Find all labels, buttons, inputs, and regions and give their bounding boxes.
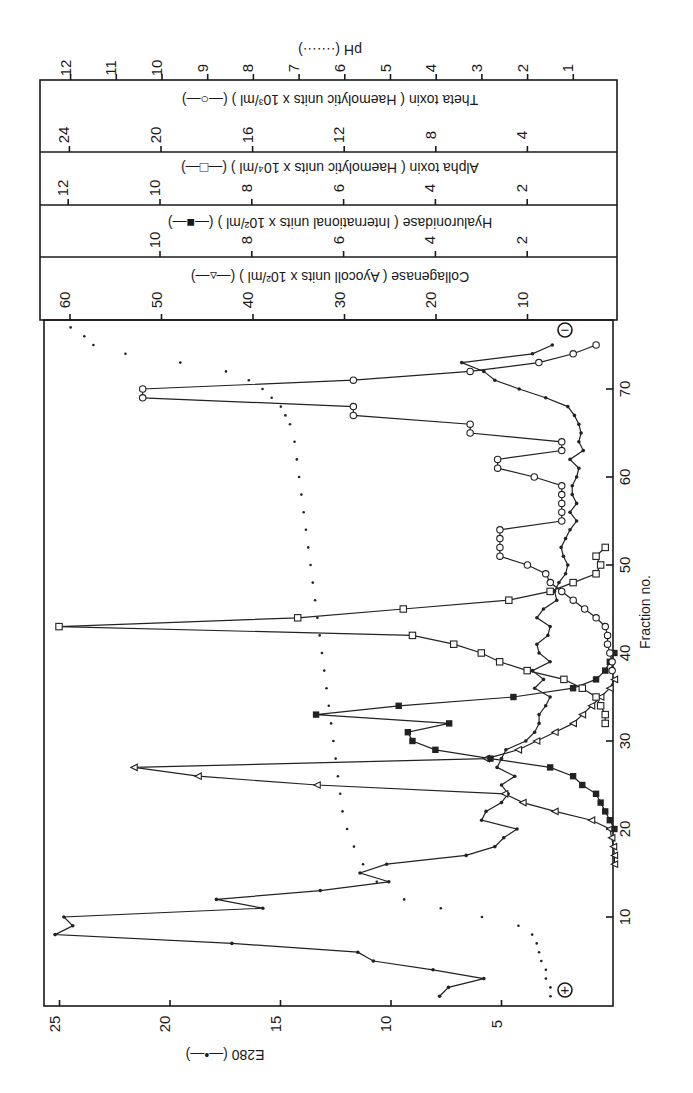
fraction-tick-label: 30 <box>616 733 633 750</box>
collagenase-tick-label: 10 <box>514 292 531 309</box>
e280-tick-label: 15 <box>267 1016 284 1033</box>
ph-tick-label: 1 <box>559 64 576 72</box>
hyaluronidase-tick-label: 4 <box>421 236 438 244</box>
collagenase-tick-label: 40 <box>239 292 256 309</box>
alpha-tick-label: 4 <box>421 184 438 192</box>
ph-tick-label: 10 <box>148 60 165 77</box>
e280-axis-title: E280 (—•—) <box>186 1047 265 1063</box>
theta-axis-title: Theta toxin ( Haemolytic units x 10³/ml … <box>182 92 478 108</box>
e280-tick-label: 25 <box>46 1016 63 1033</box>
theta-tick-label: 12 <box>330 127 347 144</box>
ph-tick-label: 4 <box>422 64 439 72</box>
hyaluronidase-axis-title: Hyaluronidase ( International units x 10… <box>168 215 492 231</box>
axis-ticks <box>60 74 614 1006</box>
collagenase-tick-label: 60 <box>56 292 73 309</box>
electrode-sign: − <box>561 321 570 338</box>
ph-tick-label: 7 <box>285 64 302 72</box>
series-alpha-toxin <box>56 544 609 726</box>
plot-frame <box>44 320 613 1006</box>
fraction-axis-title: Fraction no. <box>637 575 653 649</box>
data-series <box>53 326 617 998</box>
series-hyaluronidase <box>313 650 618 832</box>
collagenase-tick-label: 30 <box>331 292 348 309</box>
series-theta-toxin <box>139 342 615 674</box>
alpha-tick-label: 8 <box>238 184 255 192</box>
chromatography-chart: 10203040506070Fraction no.510152025E280 … <box>0 0 693 1093</box>
e280-tick-label: 10 <box>377 1016 394 1033</box>
ph-tick-label: 11 <box>102 60 119 76</box>
theta-tick-label: 4 <box>513 131 530 139</box>
fraction-tick-label: 50 <box>616 557 633 574</box>
theta-tick-label: 8 <box>422 131 439 139</box>
electrode-sign: + <box>561 981 570 998</box>
ph-axis-title: pH (·······) <box>298 42 362 58</box>
ph-tick-label: 12 <box>57 60 74 77</box>
ph-tick-label: 2 <box>514 64 531 72</box>
alpha-tick-label: 12 <box>54 180 71 197</box>
ph-tick-label: 6 <box>331 64 348 72</box>
theta-tick-label: 16 <box>239 127 256 144</box>
e280-tick-label: 5 <box>488 1020 505 1028</box>
theta-tick-label: 20 <box>147 127 164 144</box>
e280-tick-label: 20 <box>156 1016 173 1033</box>
fraction-tick-label: 70 <box>616 381 633 398</box>
alpha-tick-label: 10 <box>146 180 163 197</box>
theta-tick-label: 24 <box>55 127 72 144</box>
alpha-tick-label: 6 <box>330 184 347 192</box>
fraction-tick-label: 10 <box>616 909 633 926</box>
hyaluronidase-tick-label: 8 <box>238 236 255 244</box>
fraction-tick-label: 60 <box>616 469 633 486</box>
hyaluronidase-tick-label: 2 <box>513 236 530 244</box>
collagenase-tick-label: 20 <box>422 292 439 309</box>
fraction-tick-label: 40 <box>616 645 633 662</box>
series-e280 <box>53 343 585 998</box>
fraction-tick-label: 20 <box>616 821 633 838</box>
collagenase-tick-label: 50 <box>148 292 165 309</box>
alpha-tick-label: 2 <box>513 184 530 192</box>
hyaluronidase-tick-label: 10 <box>146 232 163 249</box>
alpha-axis-title: Alpha toxin ( Haemolytic units x 10⁴/ml … <box>181 160 479 176</box>
hyaluronidase-tick-label: 6 <box>330 236 347 244</box>
ph-tick-label: 5 <box>377 64 394 72</box>
series-ph <box>69 326 551 997</box>
ph-tick-label: 3 <box>468 64 485 72</box>
ph-tick-label: 8 <box>239 64 256 72</box>
collagenase-axis-title: Collagenase ( Ayocoll units x 10²/ml ) (… <box>191 269 469 285</box>
ph-tick-label: 9 <box>194 64 211 72</box>
